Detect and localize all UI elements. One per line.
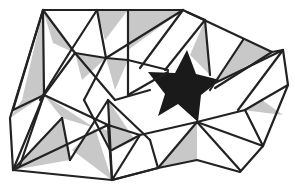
triangulation-svg [0, 0, 295, 189]
triangulation-figure [0, 0, 295, 189]
edge-line [43, 10, 44, 95]
